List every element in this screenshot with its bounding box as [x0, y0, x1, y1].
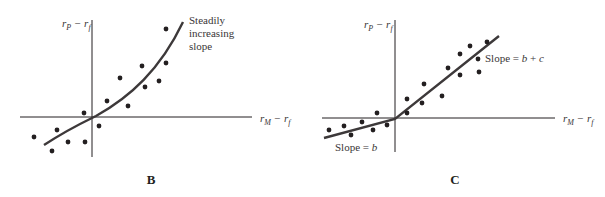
c-x-axis-label: rM − rf — [563, 112, 595, 127]
b-convex-fit-curve — [44, 22, 183, 145]
b-panel-label: B — [147, 172, 156, 187]
b-data-points — [32, 27, 169, 154]
figure-canvas: rP − rf rM − rf Steadily increasing slop… — [0, 0, 605, 197]
b-annotation: Steadily increasing slope — [189, 14, 237, 52]
c-slope-b-plus-c-label: Slope = b + c — [485, 52, 544, 64]
c-piecewise-fit-line — [324, 36, 499, 138]
b-x-axis-label: rM − rf — [260, 112, 292, 127]
panel-c: rP − rf rM − rf Slope = b Slope = b + c … — [322, 18, 595, 187]
c-panel-label: C — [450, 172, 459, 187]
c-data-points — [327, 40, 490, 138]
b-y-axis-label: rP − rf — [62, 17, 92, 32]
c-slope-b-label: Slope = b — [335, 141, 378, 153]
c-y-axis-label: rP − rf — [364, 18, 394, 33]
panel-b: rP − rf rM − rf Steadily increasing slop… — [20, 14, 292, 187]
